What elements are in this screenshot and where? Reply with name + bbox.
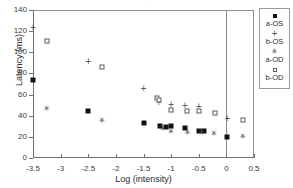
x-tick-label: -1 [168,165,175,173]
y-tick [29,158,33,159]
y-axis-line [33,10,34,158]
x-tick [199,154,200,158]
data-point-b-od [213,110,218,115]
data-point-b-os: + [140,85,147,92]
x-axis-title: Log (intensity) [33,174,254,184]
scatter-plot-figure: · · · Latency (ms) Log (intensity) -3.5-… [0,0,293,188]
y-tick-label: 80 [18,69,27,77]
data-point-b-od [44,38,49,43]
x-tick [33,154,34,158]
data-point-a-od: ✳ [198,128,205,135]
data-point-a-os [141,121,146,126]
data-point-a-os [31,77,36,82]
data-point-b-os: + [181,102,188,109]
legend-label: b-OD [261,73,288,82]
y-tick [29,137,33,138]
data-point-a-od: ✳ [159,125,166,132]
legend-label: a-OS [261,19,288,28]
data-point-b-os: + [30,23,37,30]
cut-off-caption: · · · [0,0,293,4]
plot-frame-right [253,10,254,158]
y-tick [29,52,33,53]
x-tick [88,154,89,158]
data-point-a-od: ✳ [211,129,218,136]
data-point-a-od: ✳ [168,127,175,134]
x-tick-label: -3.5 [26,165,40,173]
y-tick-label: 40 [18,112,27,120]
x-tick [171,154,172,158]
data-point-a-od: ✳ [99,116,106,123]
data-point-b-od [240,117,245,122]
x-tick [144,154,145,158]
x-tick-label: -2 [112,165,119,173]
x-tick [226,154,227,158]
data-point-b-od [184,109,189,114]
y-tick-label: 100 [14,48,27,56]
data-point-a-os [86,109,91,114]
y-tick [29,10,33,11]
y-tick [29,73,33,74]
legend-entry-b-od[interactable]: b-OD [261,66,288,82]
data-point-a-od: ✳ [239,132,246,139]
data-point-b-od [169,108,174,113]
y-tick-label: 120 [14,27,27,35]
data-point-b-od [196,109,201,114]
y-tick [29,95,33,96]
data-point-b-od [100,65,105,70]
plot-frame-top [33,10,254,11]
x-tick-label: -1.5 [137,165,151,173]
x-tick-label: 0 [224,165,228,173]
data-point-a-od: ✳ [184,128,191,135]
legend-marker-asterisk-icon: ✳ [261,48,288,55]
y-tick-label: 0 [23,154,27,162]
legend: a-OS+b-OS✳a-ODb-OD [259,8,290,89]
legend-entry-a-os[interactable]: a-OS [261,12,288,28]
y-tick-label: 140 [14,6,27,14]
x-tick-label: -0.5 [192,165,206,173]
data-point-b-os: + [168,101,175,108]
legend-label: b-OS [261,37,288,46]
data-point-b-os: + [85,57,92,64]
y-tick [29,116,33,117]
data-point-a-od: ✳ [43,105,50,112]
legend-label: a-OD [261,55,288,64]
x-tick [254,154,255,158]
y-tick-label: 60 [18,91,27,99]
data-point-a-os [225,134,230,139]
legend-marker-filled-square-icon [261,12,288,19]
legend-entry-b-os[interactable]: +b-OS [261,30,288,46]
x-tick-label: -2.5 [81,165,95,173]
data-point-b-od [156,97,161,102]
x-tick [116,154,117,158]
x-tick [61,154,62,158]
x-tick-label: 0.5 [248,165,259,173]
y-tick-label: 20 [18,133,27,141]
legend-entry-a-od[interactable]: ✳a-OD [261,48,288,64]
plot-area: -3.5-3-2.5-2-1.5-1-0.500.5 0204060801001… [33,10,254,158]
legend-marker-plus-icon: + [261,30,288,37]
data-point-b-os: + [224,114,231,121]
x-tick-label: -3 [57,165,64,173]
legend-marker-open-square-icon [261,66,288,73]
